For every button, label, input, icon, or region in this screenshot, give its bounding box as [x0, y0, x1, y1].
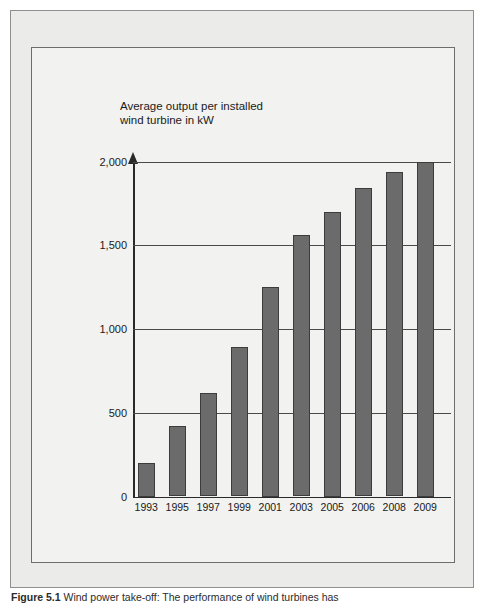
y-tick-label-0: 0: [73, 491, 127, 503]
bar-2009: [417, 162, 435, 497]
bar-1993: [138, 463, 156, 497]
figure-inner-frame: Average output per installed wind turbin…: [31, 47, 455, 563]
figure-caption: Figure 5.1 Wind power take-off: The perf…: [11, 591, 481, 603]
figure-outer-frame: Average output per installed wind turbin…: [10, 10, 474, 588]
chart-title: Average output per installed wind turbin…: [120, 100, 380, 127]
bar-1997: [200, 393, 218, 497]
y-tick-label-500: 500: [73, 407, 127, 419]
y-tick-label-2000: 2,000: [73, 156, 127, 168]
x-tick-label-2009: 2009: [414, 501, 437, 513]
x-tick-label-2008: 2008: [383, 501, 406, 513]
x-tick-label-2005: 2005: [321, 501, 344, 513]
y-tick-label-1500: 1,500: [73, 239, 127, 251]
x-tick-label-1997: 1997: [197, 501, 220, 513]
bar-2008: [386, 172, 404, 497]
x-tick-label-1995: 1995: [166, 501, 189, 513]
bar-2005: [324, 212, 342, 497]
x-axis-line: [133, 497, 451, 499]
x-tick-label-2006: 2006: [352, 501, 375, 513]
y-tick-label-1000: 1,000: [73, 323, 127, 335]
figure-caption-label: Figure 5.1: [11, 591, 61, 603]
x-tick-label-1999: 1999: [228, 501, 251, 513]
bar-1995: [169, 426, 187, 496]
x-tick-label-2003: 2003: [290, 501, 313, 513]
bar-2003: [293, 235, 311, 496]
bar-chart: Average output per installed wind turbin…: [32, 48, 456, 564]
figure-caption-text: Wind power take-off: The performance of …: [64, 591, 339, 603]
bar-2006: [355, 188, 373, 496]
bar-2001: [262, 287, 280, 496]
x-tick-label-2001: 2001: [259, 501, 282, 513]
x-tick-label-1993: 1993: [135, 501, 158, 513]
bar-1999: [231, 347, 249, 496]
gridline-2000: [133, 162, 451, 163]
